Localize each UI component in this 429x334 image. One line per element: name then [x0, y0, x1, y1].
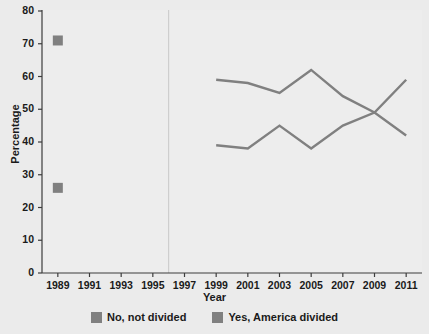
legend-label: No, not divided	[107, 311, 186, 323]
legend-item-0[interactable]: No, not divided	[91, 311, 186, 323]
chart-container: Percentage Year 01020304050607080 198919…	[0, 0, 429, 334]
plot-background	[42, 10, 422, 273]
legend-label: Yes, America divided	[228, 311, 338, 323]
y-tick-label: 70	[10, 37, 34, 49]
y-tick-label: 30	[10, 168, 34, 180]
y-tick-label: 0	[10, 266, 34, 278]
y-tick-label: 80	[10, 4, 34, 16]
chart-legend: No, not dividedYes, America divided	[0, 311, 429, 323]
x-axis-label: Year	[0, 291, 429, 303]
y-tick-label: 20	[10, 201, 34, 213]
legend-swatch-icon	[91, 312, 102, 323]
series-marker-1	[53, 183, 63, 193]
y-tick-label: 40	[10, 135, 34, 147]
y-tick-label: 60	[10, 70, 34, 82]
series-marker-0	[53, 35, 63, 45]
y-tick-label: 50	[10, 102, 34, 114]
legend-swatch-icon	[212, 312, 223, 323]
legend-item-1[interactable]: Yes, America divided	[212, 311, 338, 323]
x-tick-label: 2011	[386, 279, 426, 291]
y-tick-label: 10	[10, 233, 34, 245]
